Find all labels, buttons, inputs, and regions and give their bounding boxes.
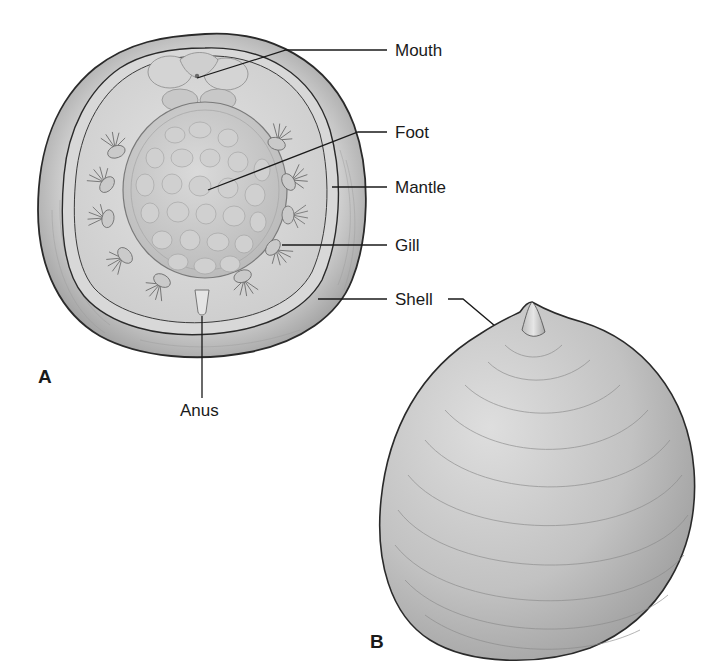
label-mantle: Mantle xyxy=(395,179,446,196)
panel-a-ventral-view xyxy=(38,34,366,358)
label-shell: Shell xyxy=(395,291,433,308)
panel-b-dorsal-shell xyxy=(380,302,695,660)
shell-b-outline xyxy=(380,302,695,660)
panel-letter-b: B xyxy=(370,632,384,651)
label-mouth: Mouth xyxy=(395,42,442,59)
foot xyxy=(123,102,287,278)
limpet-anatomy-diagram xyxy=(0,0,724,667)
label-anus: Anus xyxy=(180,402,219,419)
panel-letter-a: A xyxy=(38,367,52,386)
label-foot: Foot xyxy=(395,124,429,141)
label-gill: Gill xyxy=(395,237,420,254)
